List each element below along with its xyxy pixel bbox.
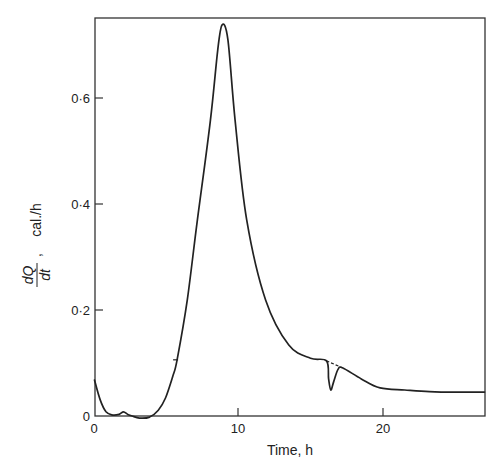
y-axis-numerator: dQ (20, 266, 36, 285)
chart-canvas: 01020 00·20·40·6 Time, h dQ dt , cal./h (0, 0, 504, 473)
y-tick-label: 0 (83, 409, 90, 424)
y-axis-comma: , (28, 253, 44, 257)
y-axis-denominator: dt (37, 268, 53, 281)
x-tick-label: 20 (376, 421, 390, 436)
x-axis-title: Time, h (267, 442, 313, 458)
y-tick-label: 0·6 (71, 91, 90, 106)
y-tick-label: 0·4 (71, 197, 90, 212)
x-axis-ticks: 01020 (90, 408, 390, 436)
y-axis-ticks: 00·20·40·6 (71, 91, 103, 424)
y-axis-unit: cal./h (28, 203, 44, 236)
x-tick-label: 10 (231, 421, 245, 436)
x-tick-label: 0 (90, 421, 97, 436)
data-line (95, 24, 485, 418)
y-axis-title: dQ dt , cal./h (20, 203, 53, 287)
y-tick-label: 0·2 (71, 303, 90, 318)
plot-frame (95, 18, 485, 416)
